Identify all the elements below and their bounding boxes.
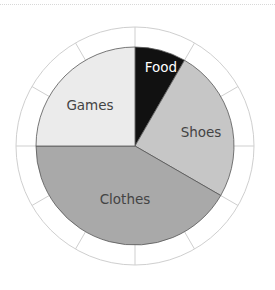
label-clothes: Clothes — [100, 191, 151, 207]
pie-slices — [36, 47, 234, 245]
label-shoes: Shoes — [181, 124, 222, 140]
label-food: Food — [145, 59, 177, 75]
label-games: Games — [66, 97, 113, 113]
pie-chart: Food Shoes Clothes Games — [0, 0, 275, 290]
